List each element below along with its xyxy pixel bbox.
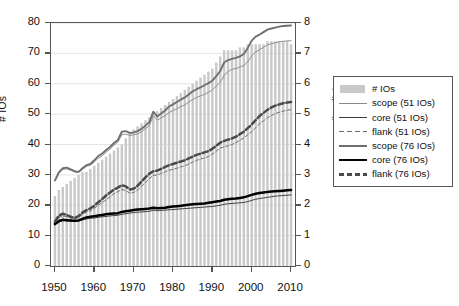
legend-item[interactable]: flank (51 IOs) — [339, 125, 447, 139]
x-axis-tick-mark — [54, 267, 55, 272]
legend-item-label: core (76 IOs) — [372, 155, 428, 165]
y-axis-right-tick-mark — [296, 83, 301, 84]
legend-key-line-icon — [339, 111, 367, 123]
legend-key-line-icon — [339, 140, 367, 152]
y-axis-right-tick-label: 1 — [304, 228, 310, 240]
y-axis-right-tick-mark — [296, 265, 301, 266]
y-axis-left-tick-label: 80 — [28, 15, 40, 27]
y-axis-right-tick-mark — [296, 235, 301, 236]
legend-key-line-icon — [339, 126, 367, 138]
legend-key-line-icon — [339, 97, 367, 109]
chart-figure: # IOs # policies 01020304050607080 01234… — [0, 0, 459, 306]
legend-item[interactable]: core (51 IOs) — [339, 110, 447, 124]
legend-item[interactable]: scope (51 IOs) — [339, 96, 447, 110]
legend-item[interactable]: scope (76 IOs) — [339, 139, 447, 153]
y-axis-right-tick-mark — [296, 22, 301, 23]
y-axis-left-tick-label: 30 — [28, 167, 40, 179]
y-axis-left-tick-label: 10 — [28, 228, 40, 240]
y-axis-left-tick-mark — [45, 83, 50, 84]
y-axis-right-tick-mark — [296, 204, 301, 205]
y-axis-left-tick-mark — [45, 204, 50, 205]
y-axis-left-tick-mark — [45, 52, 50, 53]
x-axis-ticks: 1950196019701980199020002010 — [0, 272, 459, 296]
legend-line-icon — [339, 103, 367, 104]
y-axis-right-ticks: 012345678 — [304, 0, 330, 306]
y-axis-left-tick-label: 20 — [28, 197, 40, 209]
legend-item[interactable]: flank (76 IOs) — [339, 167, 447, 181]
y-axis-left-tick-label: 50 — [28, 106, 40, 118]
y-axis-left-tick-mark — [45, 22, 50, 23]
legend-key-swatch-icon — [339, 83, 367, 95]
y-axis-right-tick-mark — [296, 52, 301, 53]
y-axis-right-tick-label: 6 — [304, 76, 310, 88]
x-axis-tick-mark — [133, 267, 134, 272]
x-axis-tick-mark — [211, 267, 212, 272]
x-axis-tick-mark — [93, 267, 94, 272]
x-axis-tick-label: 1980 — [159, 281, 185, 293]
y-axis-right-tick-label: 8 — [304, 15, 310, 27]
legend-line-icon — [339, 173, 367, 176]
legend-item-label: flank (76 IOs) — [372, 169, 430, 179]
chart-legend: # IOsscope (51 IOs)core (51 IOs)flank (5… — [333, 76, 453, 187]
legend-item-label: scope (76 IOs) — [372, 141, 435, 151]
legend-item-label: scope (51 IOs) — [372, 98, 435, 108]
y-axis-right-tick-label: 5 — [304, 106, 310, 118]
plot-area — [50, 22, 296, 267]
y-axis-right-tick-label: 3 — [304, 167, 310, 179]
legend-item-label: flank (51 IOs) — [372, 127, 430, 137]
x-axis-tick-label: 2000 — [238, 281, 264, 293]
legend-item-label: # IOs — [372, 84, 395, 94]
x-axis-tick-mark — [251, 267, 252, 272]
y-axis-left-tick-mark — [45, 235, 50, 236]
x-axis-tick-label: 2010 — [277, 281, 303, 293]
y-axis-left-tick-mark — [45, 265, 50, 266]
y-axis-left-tick-mark — [45, 174, 50, 175]
y-axis-left-tick-label: 40 — [28, 137, 40, 149]
y-axis-left-tick-mark — [45, 144, 50, 145]
x-axis-tick-label: 1990 — [199, 281, 225, 293]
legend-item-label: core (51 IOs) — [372, 113, 428, 123]
y-axis-left-tick-label: 0 — [34, 258, 40, 270]
y-axis-right-tick-label: 4 — [304, 137, 310, 149]
plot-canvas — [51, 23, 295, 266]
x-axis-tick-mark — [172, 267, 173, 272]
legend-item[interactable]: core (76 IOs) — [339, 153, 447, 167]
legend-line-icon — [339, 131, 367, 132]
y-axis-left-tick-label: 60 — [28, 76, 40, 88]
y-axis-right-tick-label: 7 — [304, 45, 310, 57]
x-axis-tick-label: 1950 — [41, 281, 67, 293]
legend-swatch-icon — [340, 85, 365, 93]
legend-line-icon — [339, 145, 367, 147]
legend-key-line-icon — [339, 168, 367, 180]
bar-series — [54, 41, 293, 266]
y-axis-left-title: # IOs — [0, 96, 8, 122]
x-axis-tick-label: 1970 — [120, 281, 146, 293]
x-axis-tick-mark — [290, 267, 291, 272]
legend-line-icon — [339, 117, 367, 118]
y-axis-right-tick-label: 0 — [304, 258, 310, 270]
y-axis-left-tick-label: 70 — [28, 45, 40, 57]
y-axis-left-ticks: 01020304050607080 — [14, 0, 40, 306]
legend-item[interactable]: # IOs — [339, 82, 447, 96]
y-axis-right-tick-mark — [296, 174, 301, 175]
y-axis-left-tick-mark — [45, 113, 50, 114]
legend-key-line-icon — [339, 154, 367, 166]
y-axis-right-tick-mark — [296, 144, 301, 145]
y-axis-right-tick-label: 2 — [304, 197, 310, 209]
x-axis-tick-label: 1960 — [80, 281, 106, 293]
legend-line-icon — [339, 159, 367, 162]
y-axis-right-tick-mark — [296, 113, 301, 114]
